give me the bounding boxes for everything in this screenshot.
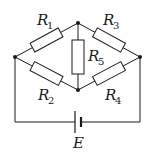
svg-text:4: 4: [115, 95, 121, 106]
label-r4: R 4: [104, 86, 121, 106]
svg-text:3: 3: [113, 20, 119, 31]
svg-text:2: 2: [48, 95, 54, 106]
junction-left: [13, 55, 17, 59]
svg-text:5: 5: [98, 56, 104, 67]
svg-text:1: 1: [47, 20, 53, 31]
resistor-r5: [72, 23, 84, 90]
junction-bottom: [76, 88, 80, 92]
junction-right: [138, 55, 142, 59]
label-r1: R 1: [36, 11, 53, 31]
battery-icon: [75, 111, 81, 133]
label-r2: R 2: [37, 86, 54, 106]
label-r5: R 5: [87, 47, 104, 67]
junction-top: [76, 21, 80, 25]
label-r3: R 3: [102, 11, 119, 31]
bridge-circuit-diagram: R 1 R 3 R 2 R 4 R 5 E: [0, 0, 152, 156]
label-e: E: [72, 134, 84, 152]
